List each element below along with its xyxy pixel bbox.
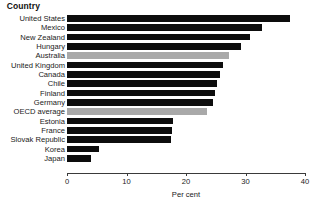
plot-area [67,14,305,173]
bar [67,52,229,59]
bar-row [67,117,305,126]
bar-row [67,23,305,32]
bar [67,71,220,78]
bar [67,90,215,97]
x-axis-tick-label: 0 [65,177,69,186]
category-label: Finland [0,89,67,98]
category-label: Germany [0,98,67,107]
bar-row [67,145,305,154]
bar [67,80,217,87]
category-label: Slovak Republic [0,135,67,144]
bar-row [67,89,305,98]
bar [67,99,213,106]
x-axis-tick-label: 10 [122,177,130,186]
bar [67,108,207,115]
bar-chart: Country United StatesMexicoNew ZealandHu… [0,0,310,208]
bar-row [67,98,305,107]
category-label: Japan [0,154,67,163]
x-axis-tick-label: 40 [301,177,309,186]
category-label: New Zealand [0,33,67,42]
x-axis-tick [67,173,68,176]
bar [67,146,99,153]
x-axis-tick [246,173,247,176]
x-axis-tick [127,173,128,176]
bar-row [67,61,305,70]
bar-row [67,33,305,42]
category-label: Canada [0,70,67,79]
category-axis-labels: United StatesMexicoNew ZealandHungaryAus… [0,14,67,173]
category-label: Mexico [0,23,67,32]
x-axis-tick-label: 30 [241,177,249,186]
x-axis-tick [305,173,306,176]
bar [67,34,250,41]
category-label: Australia [0,51,67,60]
category-label: OECD average [0,107,67,116]
bar [67,155,91,162]
bar [67,15,290,22]
x-axis-title: Per cent [67,190,305,199]
country-column-header: Country [0,1,67,11]
category-label: Chile [0,79,67,88]
category-label: Estonia [0,117,67,126]
category-label: United Kingdom [0,61,67,70]
bar-row [67,70,305,79]
bar-row [67,79,305,88]
x-axis-tick [186,173,187,176]
x-axis-tick-label: 20 [182,177,190,186]
bar-row [67,135,305,144]
bar [67,118,173,125]
bar-row [67,14,305,23]
bar-row [67,107,305,116]
bar-row [67,126,305,135]
category-label: Hungary [0,42,67,51]
bar [67,62,223,69]
category-label: United States [0,14,67,23]
bar-row [67,51,305,60]
bar [67,127,172,134]
bar-row [67,154,305,163]
category-label: France [0,126,67,135]
bar [67,24,262,31]
category-label: Korea [0,145,67,154]
bar-row [67,42,305,51]
bar [67,136,171,143]
bar [67,43,241,50]
